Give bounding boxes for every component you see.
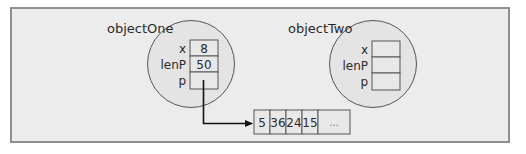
array-value: 5 [258,116,266,130]
object-one-value-x: 8 [200,42,208,56]
dynamic-array: 5 36 24 15 ... [254,110,350,134]
object-two: objectTwo x lenP p [288,21,417,108]
object-two-label-p: p [360,75,368,89]
object-one-label: objectOne [107,21,174,36]
array-value: 36 [270,116,285,130]
array-value: 15 [302,116,317,130]
memory-diagram: objectOne x lenP p 8 50 objectTwo x lenP… [0,0,526,154]
object-two-field-p [372,73,400,90]
object-one-label-lenP: lenP [160,58,186,72]
object-one-label-p: p [178,74,186,88]
object-two-label: objectTwo [288,21,352,36]
object-one: objectOne x lenP p 8 50 [107,21,235,108]
array-ellipsis: ... [329,117,339,128]
object-two-label-x: x [361,43,368,57]
array-value: 24 [286,116,301,130]
object-one-label-x: x [179,42,186,56]
object-one-value-lenP: 50 [196,58,211,72]
object-two-field-lenP [372,57,400,73]
object-two-label-lenP: lenP [342,59,368,73]
object-two-field-x [372,41,400,57]
